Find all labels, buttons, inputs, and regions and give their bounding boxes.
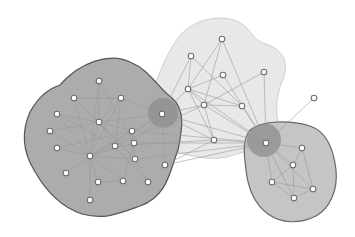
graph-node [132, 156, 138, 162]
graph-node [54, 111, 60, 117]
graph-node [290, 162, 296, 168]
graph-node [291, 195, 297, 201]
graph-node [87, 197, 93, 203]
graph-node [87, 153, 93, 159]
graph-node [162, 162, 168, 168]
graph-node [118, 95, 124, 101]
graph-node [261, 69, 267, 75]
graph-node [120, 178, 126, 184]
graph-node [310, 186, 316, 192]
network-community-diagram [0, 0, 355, 237]
graph-node [185, 86, 191, 92]
graph-node [219, 36, 225, 42]
graph-node [311, 95, 317, 101]
graph-node [96, 78, 102, 84]
graph-node [211, 137, 217, 143]
graph-node [220, 72, 226, 78]
graph-node [239, 103, 245, 109]
graph-node [201, 102, 207, 108]
graph-node [131, 140, 137, 146]
graph-node [269, 179, 275, 185]
graph-node [188, 53, 194, 59]
graph-node [145, 179, 151, 185]
graph-node [47, 128, 53, 134]
graph-node [263, 140, 269, 146]
graph-node [299, 145, 305, 151]
graph-node [63, 170, 69, 176]
graph-node [96, 119, 102, 125]
graph-node [129, 128, 135, 134]
graph-node [159, 111, 165, 117]
graph-node [95, 179, 101, 185]
graph-node [112, 143, 118, 149]
graph-node [54, 145, 60, 151]
graph-node [71, 95, 77, 101]
